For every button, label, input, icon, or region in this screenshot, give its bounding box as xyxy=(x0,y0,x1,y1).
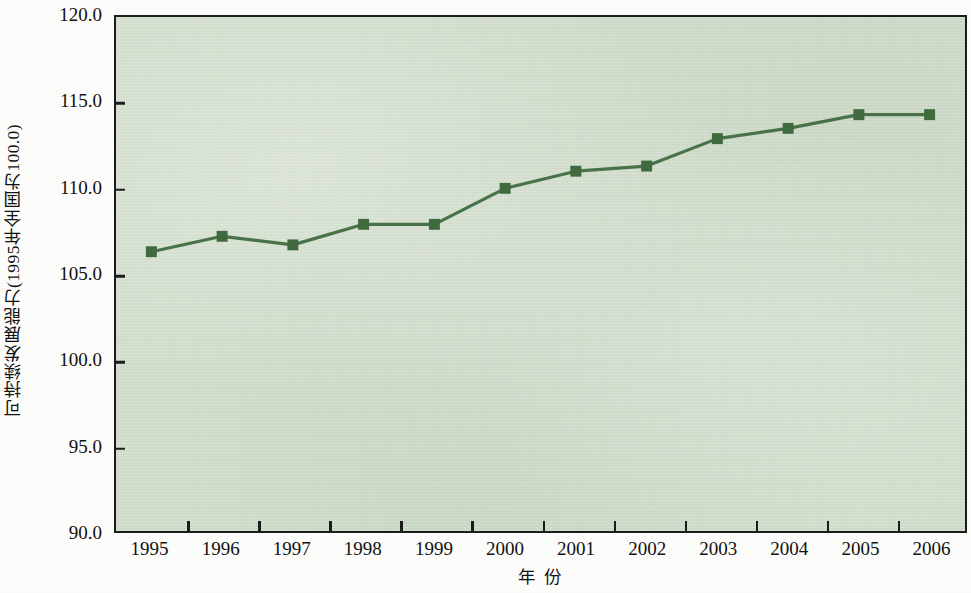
series-line xyxy=(151,115,929,252)
y-axis-tick-label: 115.0 xyxy=(60,90,102,112)
y-axis-tick-label: 100.0 xyxy=(59,349,102,371)
y-axis-tick-labels: 90.095.0100.0105.0110.0115.0120.0 xyxy=(28,0,108,593)
x-axis-tick-mark xyxy=(543,521,546,531)
x-axis-tick-label: 1997 xyxy=(273,538,311,560)
data-point-marker xyxy=(217,231,228,242)
y-axis-tick-label: 120.0 xyxy=(59,4,102,26)
y-axis-title: 可持续发展能力(1995年全国为100.0) xyxy=(0,0,24,540)
x-axis-tick-label: 1999 xyxy=(415,538,453,560)
x-axis-tick-label: 2004 xyxy=(770,538,808,560)
y-axis-tick-mark xyxy=(116,102,125,105)
y-axis-tick-mark xyxy=(116,188,125,191)
x-axis-tick-label: 1996 xyxy=(202,538,240,560)
x-axis-tick-label: 1998 xyxy=(344,538,382,560)
data-point-marker xyxy=(924,109,935,120)
x-axis-tick-mark xyxy=(898,521,901,531)
data-series-line xyxy=(116,17,965,531)
x-axis-tick-label: 1995 xyxy=(131,538,169,560)
y-axis-tick-label: 90.0 xyxy=(69,522,102,544)
x-axis-tick-mark xyxy=(258,521,261,531)
x-axis-tick-mark xyxy=(685,521,688,531)
x-axis-tick-label: 2000 xyxy=(486,538,524,560)
plot-area xyxy=(114,15,967,533)
data-point-marker xyxy=(712,133,723,144)
data-point-marker xyxy=(853,109,864,120)
chart-figure: 可持续发展能力(1995年全国为100.0) 90.095.0100.0105.… xyxy=(0,0,971,593)
x-axis-tick-mark xyxy=(756,521,759,531)
y-axis-tick-label: 95.0 xyxy=(69,436,102,458)
x-axis-tick-label: 2001 xyxy=(557,538,595,560)
y-axis-tick-label: 105.0 xyxy=(59,263,102,285)
x-axis-tick-mark xyxy=(614,521,617,531)
x-axis-tick-mark xyxy=(827,521,830,531)
x-axis-tick-mark xyxy=(471,521,474,531)
data-point-marker xyxy=(358,219,369,230)
y-axis-tick-mark xyxy=(116,447,125,450)
y-axis-tick-label: 110.0 xyxy=(60,177,102,199)
y-axis-title-text: 可持续发展能力(1995年全国为100.0) xyxy=(0,124,25,417)
data-point-marker xyxy=(287,239,298,250)
data-point-marker xyxy=(570,166,581,177)
x-axis-tick-labels: 1995199619971998199920002001200220032004… xyxy=(114,536,967,566)
data-point-marker xyxy=(500,183,511,194)
x-axis-tick-mark xyxy=(329,521,332,531)
x-axis-tick-mark xyxy=(187,521,190,531)
x-axis-tick-label: 2005 xyxy=(841,538,879,560)
data-point-marker xyxy=(641,161,652,172)
x-axis-tick-label: 2006 xyxy=(912,538,950,560)
y-axis-tick-mark xyxy=(116,361,125,364)
x-axis-title: 年 份 xyxy=(114,563,967,588)
x-axis-tick-label: 2003 xyxy=(699,538,737,560)
y-axis-tick-mark xyxy=(116,275,125,278)
x-axis-tick-mark xyxy=(400,521,403,531)
x-axis-tick-label: 2002 xyxy=(628,538,666,560)
data-point-marker xyxy=(783,123,794,134)
data-point-marker xyxy=(429,219,440,230)
data-point-marker xyxy=(146,246,157,257)
